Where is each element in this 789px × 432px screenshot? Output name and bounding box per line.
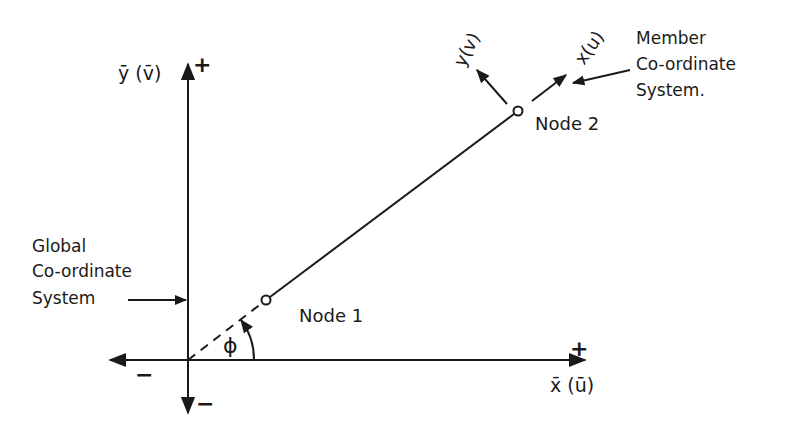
node-1-marker xyxy=(262,296,271,305)
member-system-label-line-3: System. xyxy=(636,80,705,100)
member-line xyxy=(270,114,514,297)
global-x-positive-sign: + xyxy=(570,336,588,361)
coordinate-systems-diagram: ȳ (v̄) + − − + x̄ (ū) Global Co-ordinate… xyxy=(0,0,789,432)
global-system-label-line-2: Co-ordinate xyxy=(32,261,132,281)
node-1-label: Node 1 xyxy=(299,305,363,326)
member-system-label-line-2: Co-ordinate xyxy=(636,54,736,74)
angle-phi-label: ϕ xyxy=(223,333,238,358)
node-2-marker xyxy=(514,107,523,116)
global-y-axis-label: ȳ (v̄) xyxy=(118,62,161,84)
global-x-negative-sign: − xyxy=(135,362,153,387)
member-system-pointer xyxy=(573,70,630,83)
global-x-axis-label: x̄ (ū) xyxy=(550,374,594,396)
member-y-axis-arrow xyxy=(477,70,507,104)
global-y-positive-sign: + xyxy=(193,52,211,77)
global-system-label-line-3: System xyxy=(32,288,95,308)
node-2-label: Node 2 xyxy=(535,113,599,134)
member-x-axis-arrow xyxy=(532,75,566,101)
angle-arc xyxy=(241,320,254,360)
global-y-negative-sign: − xyxy=(196,391,214,416)
member-system-label-line-1: Member xyxy=(636,28,706,48)
global-system-label-line-1: Global xyxy=(32,236,86,256)
member-x-axis-label: x(u) xyxy=(570,27,608,69)
member-y-axis-label: y(v) xyxy=(449,29,484,70)
